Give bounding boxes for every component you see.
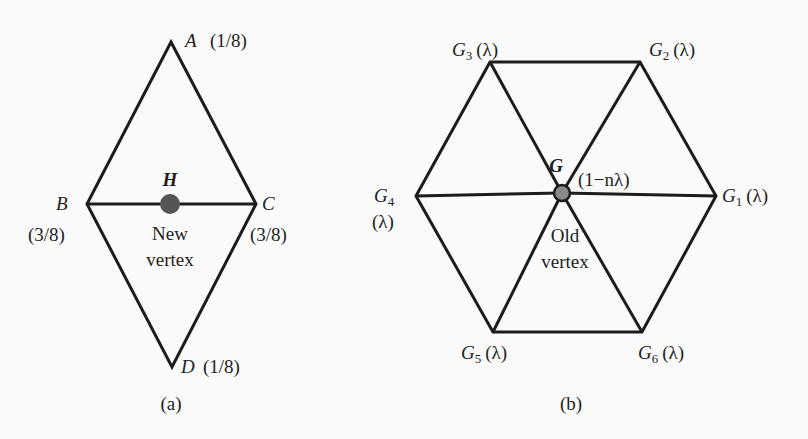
label-g1: G1(λ) (722, 185, 768, 209)
new-vertex-label-line2: vertex (146, 249, 194, 270)
figure-b: G (1−nλ) G3(λ) G2(λ) G1(λ) G4 (λ) G5(λ) … (372, 39, 768, 415)
weight-b: (3/8) (28, 224, 65, 246)
label-g4: G4 (374, 185, 395, 209)
old-vertex-label-line2: vertex (541, 251, 589, 272)
caption-b: (b) (560, 393, 582, 415)
old-vertex-label-line1: Old (551, 225, 580, 246)
label-g2: G2(λ) (649, 39, 695, 63)
label-h: H (162, 169, 179, 190)
label-a: A (183, 30, 197, 51)
weight-a: (1/8) (210, 30, 247, 52)
label-g3: G3(λ) (452, 39, 498, 63)
figure-a: H A (1/8) B (3/8) C (3/8) D (1/8) New ve… (28, 30, 287, 415)
weight-c: (3/8) (250, 224, 287, 246)
new-vertex-point-h (160, 194, 180, 214)
spoke-g4 (416, 193, 562, 196)
weight-g4: (λ) (372, 211, 394, 233)
spoke-g1 (562, 193, 716, 196)
caption-a: (a) (160, 393, 181, 415)
label-b: B (56, 193, 68, 214)
subdivision-diagram: H A (1/8) B (3/8) C (3/8) D (1/8) New ve… (0, 0, 808, 439)
label-g: G (549, 155, 563, 176)
weight-d: (1/8) (203, 356, 240, 378)
old-vertex-point-g (554, 185, 570, 201)
weight-g: (1−nλ) (578, 169, 630, 191)
new-vertex-label-line1: New (152, 223, 188, 244)
label-d: D (180, 356, 195, 377)
label-c: C (262, 193, 275, 214)
label-g5: G5(λ) (461, 342, 507, 366)
label-g6: G6(λ) (638, 342, 684, 366)
